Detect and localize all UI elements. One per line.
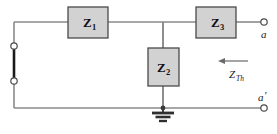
impedance-z3-subscript: 3 (220, 22, 224, 32)
terminal-a-label: a (261, 28, 267, 40)
terminal-source-bottom-circle[interactable] (11, 78, 17, 84)
terminal-source-top[interactable] (11, 43, 17, 49)
terminal-source-top-circle[interactable] (11, 43, 17, 49)
impedance-z1-subscript: 1 (92, 22, 96, 32)
circuit-diagram: Z 1 Z 2 Z 3 a a ′ (0, 0, 277, 134)
impedance-z1-symbol: Z (83, 15, 92, 30)
terminal-a[interactable]: a (261, 19, 267, 40)
junction-ground-node (161, 106, 166, 111)
thevenin-arrow-head-icon (218, 58, 225, 64)
ground-symbol (152, 113, 174, 121)
impedance-z3[interactable]: Z 3 (196, 7, 236, 38)
thevenin-label-symbol: Z (229, 68, 236, 80)
impedance-z2-subscript: 2 (166, 67, 170, 77)
terminal-a-prime-circle[interactable] (261, 105, 267, 111)
thevenin-label-subscript: Th (236, 74, 244, 83)
circuit-canvas: Z 1 Z 2 Z 3 a a ′ (0, 0, 277, 134)
impedance-z3-symbol: Z (211, 15, 220, 30)
terminal-a-prime-mark: ′ (264, 89, 267, 101)
impedance-z2[interactable]: Z 2 (148, 48, 179, 86)
impedance-z2-symbol: Z (157, 60, 166, 75)
terminal-a-circle[interactable] (261, 19, 267, 25)
impedance-z1[interactable]: Z 1 (68, 7, 108, 38)
terminal-source-bottom[interactable] (11, 78, 17, 84)
thevenin-impedance-annotation: Z Th (218, 58, 248, 83)
